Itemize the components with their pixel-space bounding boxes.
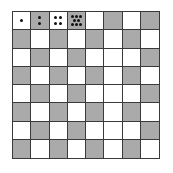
board-square-r1-c6 [104, 12, 122, 30]
board-square-r6-c7 [123, 103, 141, 121]
board-square-r4-c6 [104, 67, 122, 85]
dot-icon [38, 16, 41, 19]
board-square-r1-c7 [123, 12, 141, 30]
board-square-r1-c4 [68, 12, 86, 30]
board-square-r4-c8 [141, 67, 159, 85]
board-square-r1-c5 [86, 12, 104, 30]
board-square-r5-c1 [13, 85, 31, 103]
board-square-r5-c8 [141, 85, 159, 103]
dot-icon [75, 15, 78, 18]
dot-icon [59, 22, 62, 25]
board-square-r4-c2 [31, 67, 49, 85]
board-square-r7-c2 [31, 122, 49, 140]
board-square-r6-c5 [86, 103, 104, 121]
dot-icon [73, 19, 76, 22]
board-square-r8-c4 [68, 140, 86, 158]
board-square-r7-c5 [86, 122, 104, 140]
dot-icon [79, 23, 82, 26]
board-square-r7-c7 [123, 122, 141, 140]
board-square-r8-c6 [104, 140, 122, 158]
dot-icon [71, 23, 74, 26]
board-square-r3-c1 [13, 49, 31, 67]
board-square-r5-c3 [50, 85, 68, 103]
board-square-r1-c8 [141, 12, 159, 30]
board-square-r3-c2 [31, 49, 49, 67]
board-square-r1-c3 [50, 12, 68, 30]
board-square-r5-c7 [123, 85, 141, 103]
board-square-r7-c1 [13, 122, 31, 140]
dot-icon [54, 22, 57, 25]
dot-group-8 [68, 12, 85, 29]
board-square-r3-c4 [68, 49, 86, 67]
board-square-r6-c4 [68, 103, 86, 121]
board-square-r7-c4 [68, 122, 86, 140]
board-square-r4-c4 [68, 67, 86, 85]
board-square-r2-c7 [123, 30, 141, 48]
board-square-r2-c6 [104, 30, 122, 48]
board-square-r5-c4 [68, 85, 86, 103]
board-square-r3-c5 [86, 49, 104, 67]
checkerboard [12, 11, 160, 159]
board-square-r3-c8 [141, 49, 159, 67]
dot-group-4 [50, 12, 67, 29]
dot-group-1 [13, 12, 30, 29]
dot-group-2 [31, 12, 48, 29]
board-square-r7-c6 [104, 122, 122, 140]
dot-icon [38, 22, 41, 25]
board-square-r2-c2 [31, 30, 49, 48]
board-square-r3-c3 [50, 49, 68, 67]
board-square-r5-c2 [31, 85, 49, 103]
board-square-r8-c7 [123, 140, 141, 158]
board-square-r3-c6 [104, 49, 122, 67]
board-square-r6-c1 [13, 103, 31, 121]
board-square-r2-c1 [13, 30, 31, 48]
board-square-r1-c1 [13, 12, 31, 30]
board-square-r8-c8 [141, 140, 159, 158]
dot-icon [75, 23, 78, 26]
board-square-r4-c3 [50, 67, 68, 85]
board-square-r7-c8 [141, 122, 159, 140]
board-square-r7-c3 [50, 122, 68, 140]
board-square-r8-c3 [50, 140, 68, 158]
board-square-r2-c5 [86, 30, 104, 48]
board-square-r2-c4 [68, 30, 86, 48]
dot-icon [77, 19, 80, 22]
dot-icon [54, 16, 57, 19]
dot-icon [59, 16, 62, 19]
board-square-r4-c1 [13, 67, 31, 85]
board-square-r2-c3 [50, 30, 68, 48]
board-square-r4-c7 [123, 67, 141, 85]
board-square-r5-c6 [104, 85, 122, 103]
board-square-r4-c5 [86, 67, 104, 85]
board-square-r3-c7 [123, 49, 141, 67]
board-square-r6-c6 [104, 103, 122, 121]
board-square-r5-c5 [86, 85, 104, 103]
board-square-r1-c2 [31, 12, 49, 30]
dot-icon [71, 15, 74, 18]
dot-icon [20, 19, 23, 22]
board-square-r8-c1 [13, 140, 31, 158]
board-square-r2-c8 [141, 30, 159, 48]
board-square-r8-c2 [31, 140, 49, 158]
board-square-r6-c3 [50, 103, 68, 121]
board-square-r6-c2 [31, 103, 49, 121]
board-square-r8-c5 [86, 140, 104, 158]
board-square-r6-c8 [141, 103, 159, 121]
dot-icon [79, 15, 82, 18]
